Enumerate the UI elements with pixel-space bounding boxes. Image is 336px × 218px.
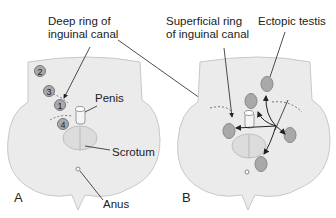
marker-3: 3 — [46, 87, 51, 97]
label-superficial-ring-line1: Superficial ring — [166, 15, 249, 28]
label-superficial-ring-line2: of inguinal canal — [166, 28, 249, 41]
label-ectopic-testis: Ectopic testis — [258, 15, 326, 28]
panel-b-body — [178, 57, 330, 210]
marker-2: 2 — [37, 67, 42, 77]
marker-1: 1 — [57, 101, 62, 111]
label-scrotum: Scrotum — [112, 146, 155, 159]
label-anus: Anus — [103, 198, 129, 211]
label-deep-ring-line1: Deep ring of — [48, 15, 118, 28]
panel-b-letter: B — [182, 191, 191, 204]
label-deep-ring-line2: inguinal canal — [48, 28, 118, 41]
panel-a-letter: A — [14, 191, 23, 204]
panel-a-body — [8, 57, 160, 210]
marker-4: 4 — [60, 120, 65, 130]
label-deep-ring: Deep ring of inguinal canal — [48, 15, 118, 41]
label-superficial-ring: Superficial ring of inguinal canal — [166, 15, 249, 41]
label-penis: Penis — [95, 92, 124, 105]
